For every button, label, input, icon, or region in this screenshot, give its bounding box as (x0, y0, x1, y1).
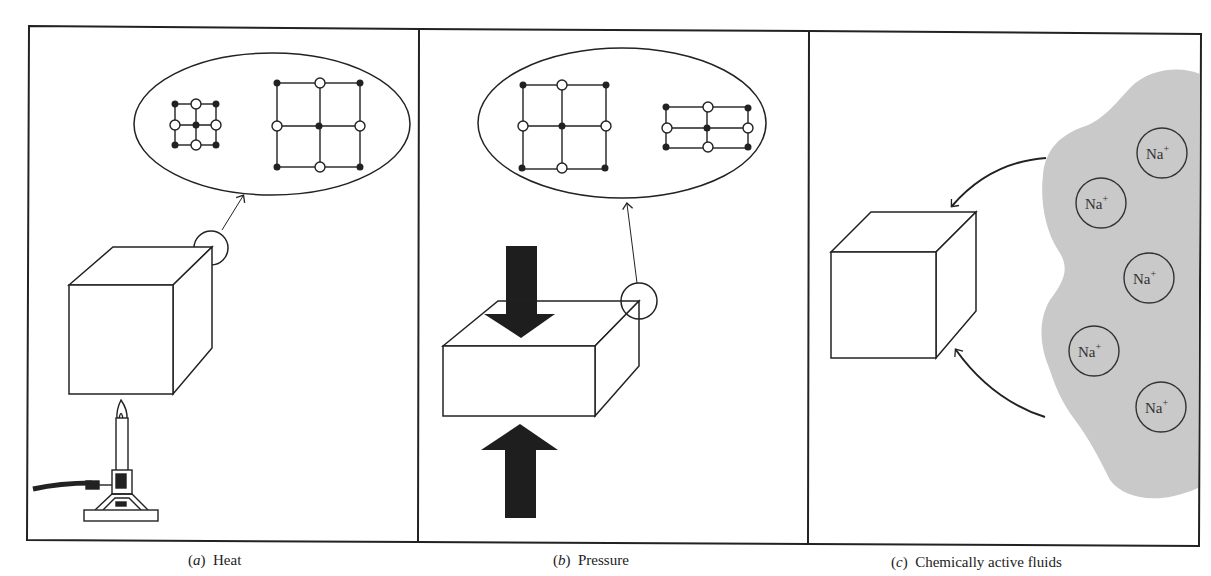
caption-fluids: (c) Chemically active fluids (891, 554, 1062, 571)
curved-arrow-icon (952, 158, 1046, 206)
crystal-lattice-compressed-icon (662, 102, 753, 152)
metamorphism-figure: Na+ Na+ Na+ Na+ Na+ (0, 0, 1211, 576)
cube-icon (69, 247, 212, 394)
caption-pressure: (b) Pressure (553, 552, 629, 569)
caption-letter: c (896, 554, 903, 570)
up-arrow-icon (481, 424, 558, 518)
curved-arrow-icon (956, 350, 1045, 417)
caption-text: Chemically active fluids (915, 554, 1062, 570)
caption-letter: a (193, 552, 201, 568)
caption-text: Heat (213, 552, 241, 568)
crystal-lattice-expanded-icon (272, 78, 365, 172)
fluid-region-icon (1042, 70, 1201, 499)
zoom-pointer-arrow (627, 204, 637, 283)
crystal-lattice-square-icon (518, 80, 611, 173)
caption-letter: b (558, 552, 566, 568)
panel-heat (27, 26, 419, 542)
cube-icon (831, 212, 976, 358)
gas-hose (33, 483, 92, 489)
zoom-pointer-arrow (222, 196, 243, 230)
crystal-lattice-small-icon (170, 99, 221, 150)
caption-heat: (a) Heat (188, 552, 241, 569)
panel-pressure (418, 29, 809, 544)
bunsen-burner-icon (33, 400, 158, 521)
caption-text: Pressure (578, 552, 629, 568)
panel-fluids: Na+ Na+ Na+ Na+ Na+ (808, 31, 1201, 546)
